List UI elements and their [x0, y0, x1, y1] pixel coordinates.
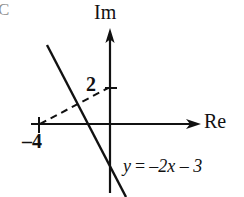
- im-tick-2-label: 2: [86, 74, 96, 94]
- corner-fragment-mark: C: [0, 1, 9, 18]
- equation-lhs: y: [123, 156, 131, 176]
- complex-plane-figure: C Im Re 2 –4 y=–2x – 3: [0, 0, 244, 197]
- dashed-segment-line: [40, 88, 108, 124]
- plot-canvas: [0, 0, 244, 197]
- equation-operator: =: [135, 156, 145, 176]
- solid-line-graph: [47, 45, 126, 197]
- imaginary-axis-label: Im: [94, 2, 116, 22]
- real-axis-label: Re: [204, 111, 226, 131]
- equation-rhs: –2x – 3: [149, 156, 202, 176]
- real-axis: [31, 119, 201, 129]
- line-equation-label: y=–2x – 3: [123, 157, 202, 175]
- re-tick-neg4-label: –4: [22, 131, 42, 151]
